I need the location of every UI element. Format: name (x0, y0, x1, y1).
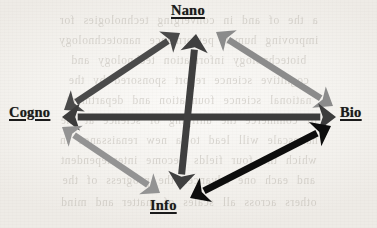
node-label-bio: Bio (340, 104, 362, 121)
edge-nano-bio (216, 30, 333, 108)
edge-layer (62, 30, 336, 202)
nbic-convergence-diagram (0, 0, 377, 228)
edge-cogno-nano (64, 32, 180, 112)
node-label-cogno: Cogno (9, 104, 50, 121)
figure-canvas: a the of and in converging technologies … (0, 0, 377, 228)
edge-cogno-nano-shaft (76, 41, 168, 102)
edge-nano-info-shaft (182, 50, 195, 175)
node-label-info: Info (150, 197, 177, 214)
node-label-nano: Nano (171, 2, 205, 19)
edge-nano-bio-shaft (228, 40, 320, 98)
edge-cogno-info-shaft (74, 135, 148, 185)
edge-info-bio-shaft (204, 133, 317, 191)
edge-nano-info (168, 34, 208, 190)
edge-cogno-info (62, 126, 160, 195)
edge-info-bio (190, 122, 331, 202)
edge-cogno-bio (62, 103, 336, 130)
